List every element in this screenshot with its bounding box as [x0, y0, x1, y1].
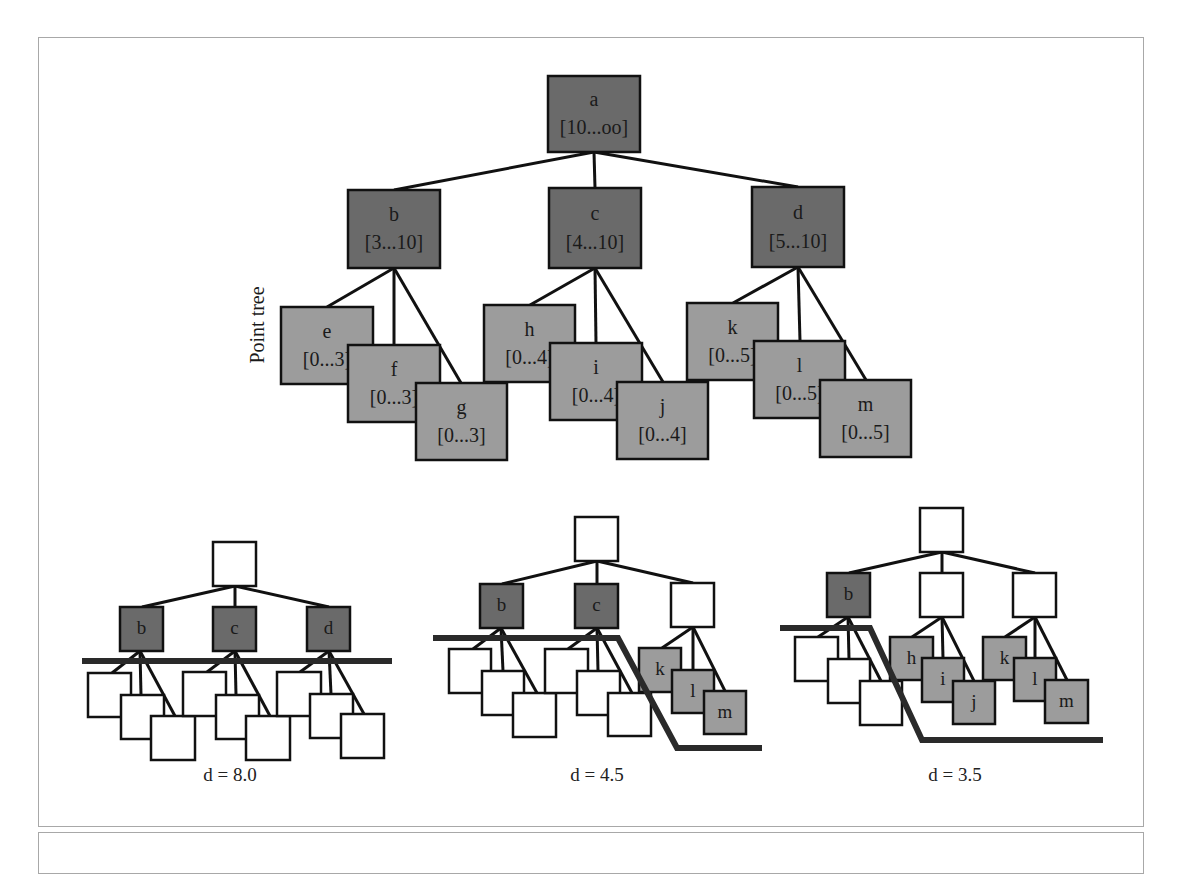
node-box: [549, 188, 641, 268]
cut-nodes: bcklm: [449, 517, 746, 737]
node-range: [10...oo]: [560, 116, 628, 138]
node-label: i: [940, 668, 945, 689]
node-range: [4...10]: [566, 231, 624, 253]
tree-node-b: b[3...10]: [348, 190, 440, 268]
tree-node-j: j: [953, 681, 995, 724]
tree-edge: [595, 268, 596, 343]
node-name: i: [593, 356, 599, 378]
node-box: [1013, 573, 1056, 617]
node-box: [213, 542, 256, 586]
node-label: b: [497, 594, 507, 615]
tree-edge: [597, 628, 598, 671]
tree-node-j: j[0...4]: [617, 382, 708, 459]
node-range: [0...4]: [572, 384, 620, 406]
tree-node-empty: [246, 716, 290, 760]
tree-node-empty: [671, 583, 714, 627]
tree-edge: [942, 617, 943, 658]
node-box: [246, 716, 290, 760]
node-label: c: [230, 617, 238, 638]
tree-node-g: g[0...3]: [416, 383, 507, 460]
node-label: k: [1000, 647, 1010, 668]
node-label: j: [970, 691, 976, 712]
tree-edge: [329, 651, 331, 694]
node-box: [920, 508, 963, 552]
tree-edge: [235, 651, 236, 695]
tree-node-m: m[0...5]: [820, 380, 911, 457]
node-name: e: [323, 320, 332, 342]
tree-edge: [849, 552, 942, 573]
cut-example-1: bcdd = 8.0: [82, 542, 392, 785]
tree-edge: [594, 152, 798, 187]
tree-node-a: a[10...oo]: [548, 76, 640, 152]
tree-edge: [848, 617, 849, 659]
node-box: [608, 693, 651, 736]
node-name: m: [858, 393, 874, 415]
tree-edge: [142, 586, 235, 607]
tree-edge: [912, 617, 942, 637]
tree-edge: [733, 267, 798, 303]
node-name: c: [591, 202, 600, 224]
tree-node-b: b: [480, 584, 523, 628]
node-box: [548, 76, 640, 152]
point-tree-nodes: a[10...oo]b[3...10]c[4...10]d[5...10]e[0…: [281, 76, 911, 460]
node-name: b: [389, 203, 399, 225]
node-range: [0...5]: [708, 344, 756, 366]
tree-edge: [501, 628, 503, 671]
tree-node-empty: [341, 714, 384, 758]
tree-node-c: c: [575, 584, 618, 628]
node-box: [151, 716, 195, 760]
node-name: j: [659, 395, 666, 418]
node-box: [752, 187, 844, 267]
tree-edge: [140, 651, 141, 695]
node-box: [348, 190, 440, 268]
tree-edge: [235, 586, 329, 607]
node-box: [820, 380, 911, 457]
cut-example-2: bcklmd = 4.5: [433, 517, 762, 785]
tree-edge: [662, 627, 693, 648]
node-box: [617, 382, 708, 459]
node-name: f: [391, 358, 398, 380]
tree-edge: [594, 152, 595, 188]
node-box: [341, 714, 384, 758]
node-label: m: [718, 701, 733, 722]
cut-nodes: bhijklm: [795, 508, 1088, 725]
node-name: l: [797, 354, 803, 376]
node-range: [0...3]: [370, 386, 418, 408]
tree-edge: [502, 561, 597, 584]
node-range: [0...5]: [841, 421, 889, 443]
node-name: a: [590, 88, 599, 110]
tree-node-empty: [151, 716, 195, 760]
tree-edge: [942, 552, 1035, 573]
node-label: l: [1032, 668, 1037, 689]
node-range: [0...5]: [775, 382, 823, 404]
node-label: l: [690, 680, 695, 701]
cut-nodes: bcd: [88, 542, 384, 760]
tree-node-m: m: [1045, 680, 1088, 723]
node-range: [5...10]: [769, 230, 827, 252]
tree-node-empty: [513, 693, 556, 737]
tree-node-d: d[5...10]: [752, 187, 844, 267]
node-box: [513, 693, 556, 737]
point-tree-side-label: Point tree: [246, 286, 268, 363]
cut-caption: d = 4.5: [570, 764, 623, 785]
tree-node-c: c: [213, 607, 256, 651]
tree-node-c: c[4...10]: [549, 188, 641, 268]
cut-example-3: bhijklmd = 3.5: [780, 508, 1103, 785]
tree-node-empty: [920, 508, 963, 552]
tree-node-m: m: [704, 691, 746, 734]
node-name: k: [728, 316, 738, 338]
node-label: h: [907, 647, 917, 668]
tree-node-empty: [1013, 573, 1056, 617]
node-range: [0...3]: [437, 424, 485, 446]
tree-node-empty: [608, 693, 651, 736]
node-label: b: [844, 583, 854, 604]
node-label: b: [137, 617, 147, 638]
tree-node-b: b: [827, 573, 870, 617]
tree-edge: [798, 267, 800, 341]
tree-edge: [394, 152, 594, 190]
cut-caption: d = 8.0: [203, 764, 256, 785]
tree-node-empty: [920, 573, 963, 617]
tree-node-d: d: [307, 607, 350, 651]
tree-node-b: b: [120, 607, 163, 651]
